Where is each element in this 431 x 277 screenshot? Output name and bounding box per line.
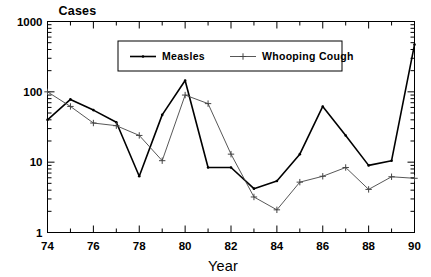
y-tick-label: 10 <box>30 156 43 168</box>
x-tick-label: 90 <box>408 240 421 252</box>
y-tick-label: 100 <box>23 86 42 98</box>
y-tick-label: 1000 <box>17 16 43 28</box>
x-tick-label: 76 <box>87 240 100 252</box>
data-point-marker <box>344 134 347 137</box>
data-point-marker <box>321 105 324 108</box>
x-tick-label: 78 <box>133 240 146 252</box>
data-point-marker <box>390 159 393 162</box>
y-tick-label: 1 <box>36 227 43 239</box>
data-point-marker <box>46 119 49 122</box>
x-tick-label: 84 <box>270 240 283 252</box>
chart-container: 1101001000747678808284868890CasesYearMea… <box>0 0 431 277</box>
data-point-marker <box>230 166 233 169</box>
data-point-marker <box>299 153 302 156</box>
y-tick-labels: 1101001000 <box>17 16 43 239</box>
series-whooping-cough <box>44 89 417 213</box>
x-tick-label: 88 <box>362 240 375 252</box>
y-axis-title: Cases <box>59 4 97 18</box>
data-point-marker <box>161 114 164 117</box>
x-tick-label: 74 <box>41 240 54 252</box>
data-point-marker <box>69 98 72 101</box>
legend-label-0: Measles <box>162 50 205 62</box>
x-axis-title: Year <box>208 258 238 274</box>
data-point-marker <box>142 55 145 58</box>
data-point-marker <box>413 43 416 46</box>
data-point-marker <box>184 79 187 82</box>
x-tick-label: 80 <box>179 240 192 252</box>
legend-label-1: Whooping Cough <box>262 50 354 62</box>
x-tick-label: 82 <box>225 240 238 252</box>
data-point-marker <box>253 187 256 190</box>
data-point-marker <box>92 109 95 112</box>
data-point-marker <box>207 166 210 169</box>
data-point-marker <box>276 180 279 183</box>
x-tick-label: 86 <box>316 240 329 252</box>
data-point-marker <box>367 164 370 167</box>
legend: MeaslesWhooping Cough <box>118 41 354 71</box>
line-chart: 1101001000747678808284868890CasesYearMea… <box>0 0 431 277</box>
data-point-marker <box>138 175 141 178</box>
series-line <box>48 92 415 210</box>
x-tick-labels: 747678808284868890 <box>41 240 421 252</box>
